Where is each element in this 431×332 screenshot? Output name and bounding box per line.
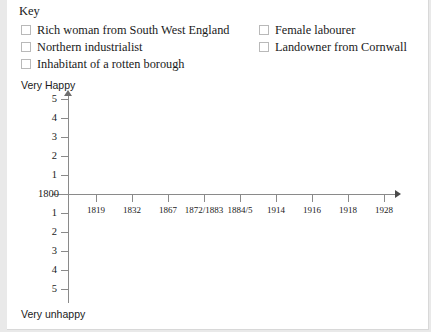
y-axis-bottom-label: Very unhappy	[21, 308, 85, 320]
x-axis-tick-label: 1867	[159, 205, 177, 216]
y-axis-tick	[61, 194, 69, 195]
x-axis-tick	[348, 195, 349, 202]
x-axis-tick	[132, 195, 133, 202]
x-axis-tick-label: 1918	[339, 205, 357, 216]
x-axis-tick-label: 1928	[375, 205, 393, 216]
x-axis-tick-label: 1884/5	[227, 205, 252, 216]
y-axis-tick	[61, 213, 69, 214]
worksheet-panel: Key Rich woman from South West England N…	[7, 0, 429, 330]
x-axis-tick	[240, 195, 241, 202]
x-axis-tick-label: 1832	[123, 205, 141, 216]
y-axis-tick	[61, 289, 69, 290]
y-axis-tick-label: 3	[23, 131, 57, 143]
y-axis-tick-label: 4	[23, 264, 57, 276]
y-axis-tick	[61, 99, 69, 100]
x-axis-tick	[96, 195, 97, 202]
y-axis-tick-label: 3	[23, 245, 57, 257]
x-axis-tick	[312, 195, 313, 202]
y-axis-tick	[61, 137, 69, 138]
y-axis-tick-label: 2	[23, 150, 57, 162]
x-axis-tick	[384, 195, 385, 202]
y-axis-tick	[61, 156, 69, 157]
y-axis-tick	[61, 232, 69, 233]
y-axis-tick	[61, 270, 69, 271]
y-axis-tick-label: 1	[23, 169, 57, 181]
y-axis-tick	[61, 118, 69, 119]
y-axis-tick-label: 4	[23, 112, 57, 124]
y-axis-tick	[61, 175, 69, 176]
y-axis-tick	[61, 251, 69, 252]
y-axis-tick-label: 5	[23, 93, 57, 105]
x-axis-tick-label: 1872/1883	[185, 205, 224, 216]
x-axis-tick-label: 1916	[303, 205, 321, 216]
y-axis-line	[68, 96, 69, 303]
y-axis-tick-label: 5	[23, 283, 57, 295]
chart-plot-area: Very Happy Very unhappy 54321180012345 1…	[7, 0, 429, 330]
y-axis-tick-label: 1	[23, 207, 57, 219]
x-axis-tick-label: 1914	[267, 205, 285, 216]
x-axis-tick	[204, 195, 205, 202]
x-axis-arrow-icon	[395, 190, 401, 198]
y-axis-origin-label: 1800	[15, 188, 59, 200]
x-axis-tick	[168, 195, 169, 202]
x-axis-line	[52, 194, 396, 195]
y-axis-tick-label: 2	[23, 226, 57, 238]
x-axis-tick	[276, 195, 277, 202]
x-axis-tick-label: 1819	[87, 205, 105, 216]
